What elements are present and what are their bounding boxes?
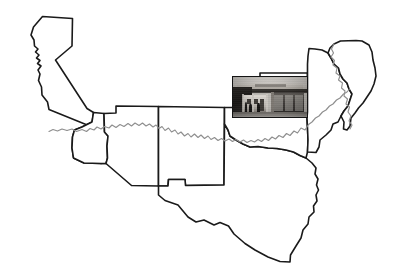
- route-66-line-west-segment: [49, 129, 67, 132]
- route-66-states-map: [0, 0, 401, 277]
- figure-canvas: [0, 0, 401, 277]
- photo-vignette: [233, 77, 307, 117]
- photo-content: [233, 77, 307, 117]
- historic-storefront-photo[interactable]: [232, 76, 308, 118]
- state-new-mexico[interactable]: [159, 107, 225, 187]
- state-arizona-body[interactable]: [104, 106, 159, 186]
